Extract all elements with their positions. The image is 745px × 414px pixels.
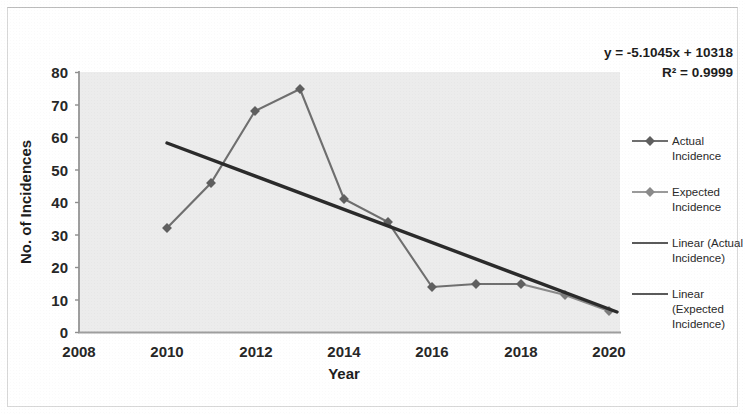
figure-container: 80 70 60 50 40 30 20 10 0 No. of Inciden…	[0, 0, 745, 414]
legend-label-linear-expected-line1: Linear	[672, 288, 704, 300]
x-tick-2012: 2012	[239, 343, 272, 360]
legend-marker-expected-incidence	[645, 187, 655, 197]
y-axis-tick-labels: 80 70 60 50 40 30 20 10 0	[51, 64, 68, 341]
legend-marker-actual-incidence	[645, 136, 655, 146]
x-tick-2020: 2020	[592, 343, 625, 360]
trendline-equation: y = -5.1045x + 10318	[604, 45, 734, 60]
y-tick-50: 50	[51, 162, 68, 179]
y-tick-0: 0	[60, 324, 68, 341]
legend-label-expected-incidence-line2: Incidence	[672, 201, 721, 213]
legend-item-actual-incidence[interactable]: Actual Incidence	[632, 135, 721, 162]
x-tick-2016: 2016	[415, 343, 448, 360]
y-tick-80: 80	[51, 64, 68, 81]
legend-label-expected-incidence-line1: Expected	[672, 186, 720, 198]
y-tick-70: 70	[51, 97, 68, 114]
x-axis-tick-labels: 2008 2010 2012 2014 2016 2018 2020	[62, 343, 625, 360]
legend-label-linear-actual-line1: Linear (Actual	[672, 237, 743, 249]
x-tick-2008: 2008	[62, 343, 95, 360]
trendline-r-squared: R² = 0.9999	[662, 65, 733, 80]
y-tick-40: 40	[51, 194, 68, 211]
x-axis-title: Year	[328, 365, 360, 382]
incidence-line-chart: 80 70 60 50 40 30 20 10 0 No. of Inciden…	[0, 0, 745, 414]
chart-legend: Actual Incidence Expected Incidence Line…	[632, 135, 743, 330]
y-tick-30: 30	[51, 227, 68, 244]
y-tick-20: 20	[51, 259, 68, 276]
legend-label-actual-incidence-line2: Incidence	[672, 150, 721, 162]
x-tick-2010: 2010	[150, 343, 183, 360]
y-axis-title: No. of Incidences	[17, 140, 34, 264]
x-tick-2014: 2014	[327, 343, 361, 360]
legend-item-linear-actual-incidence[interactable]: Linear (Actual Incidence)	[632, 237, 743, 264]
legend-item-expected-incidence[interactable]: Expected Incidence	[632, 186, 721, 213]
legend-item-linear-expected-incidence[interactable]: Linear (Expected Incidence)	[632, 288, 725, 330]
x-tick-2018: 2018	[504, 343, 537, 360]
y-tick-10: 10	[51, 292, 68, 309]
legend-label-linear-expected-line3: Incidence)	[672, 318, 725, 330]
y-tick-60: 60	[51, 129, 68, 146]
legend-label-actual-incidence-line1: Actual	[672, 135, 704, 147]
legend-label-linear-actual-line2: Incidence)	[672, 252, 725, 264]
legend-label-linear-expected-line2: (Expected	[672, 303, 724, 315]
